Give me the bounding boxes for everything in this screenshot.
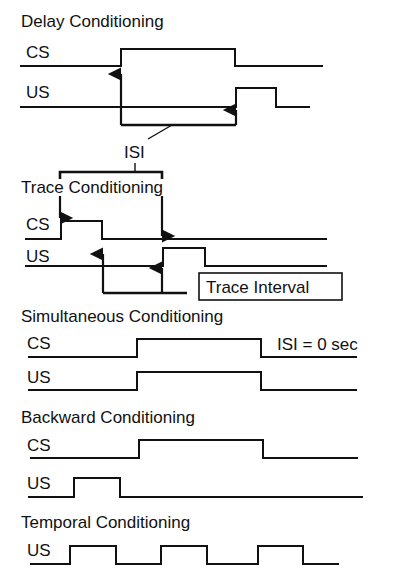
temporal-us-waveform (30, 546, 339, 564)
simultaneous-us-label: US (27, 368, 51, 387)
delay-cs-label: CS (26, 43, 50, 62)
delay-title: Delay Conditioning (21, 12, 164, 31)
trace-interval-label: Trace Interval (206, 278, 309, 297)
trace-cs-waveform (25, 221, 327, 239)
simultaneous-isi-label: ISI = 0 sec (277, 335, 358, 354)
delay-conditioning-section: Delay Conditioning CS US ISI (20, 12, 323, 162)
trace-cs-label: CS (26, 215, 50, 234)
simultaneous-us-waveform (28, 372, 357, 390)
backward-us-label: US (27, 474, 51, 493)
simultaneous-title: Simultaneous Conditioning (21, 307, 223, 326)
simultaneous-conditioning-section: Simultaneous Conditioning CS ISI = 0 sec… (21, 307, 358, 390)
temporal-conditioning-section: Temporal Conditioning US (21, 513, 339, 564)
temporal-title: Temporal Conditioning (21, 513, 190, 532)
simultaneous-cs-label: CS (27, 334, 51, 353)
delay-isi-label: ISI (124, 143, 145, 162)
trace-us-waveform (25, 248, 327, 266)
conditioning-timing-diagram: Delay Conditioning CS US ISI Trace Condi… (0, 0, 397, 580)
delay-cs-waveform (20, 49, 323, 66)
backward-cs-label: CS (27, 436, 51, 455)
trace-title: Trace Conditioning (21, 178, 163, 197)
delay-us-label: US (26, 83, 50, 102)
trace-us-label: US (26, 247, 50, 266)
backward-conditioning-section: Backward Conditioning CS US (21, 408, 363, 497)
trace-conditioning-section: Trace Conditioning CS US Trace Interval (21, 163, 342, 300)
backward-cs-waveform (30, 440, 358, 458)
backward-title: Backward Conditioning (21, 408, 195, 427)
delay-isi-leader-line (148, 125, 172, 139)
temporal-us-label: US (27, 541, 51, 560)
delay-us-waveform (20, 88, 310, 107)
backward-us-waveform (28, 478, 363, 497)
